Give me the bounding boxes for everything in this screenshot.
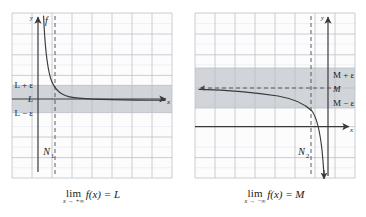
left-lim-operator: lim x → +∞: [63, 188, 84, 204]
threshold-sub-n2: 2: [306, 152, 309, 159]
label-M-minus-epsilon: M − ε: [333, 98, 355, 108]
label-L: L: [27, 94, 33, 104]
left-y-axis-label: y: [29, 14, 33, 21]
panel-limit-minus-infinity: y x M + ε M M − ε N 2 lim x → −∞ f(x) = …: [183, 0, 366, 217]
right-lim-body: f(x) = M: [267, 189, 304, 200]
threshold-label-n2: N: [297, 146, 306, 157]
limits-at-infinity-figure: y f x L + ε L L − ε N 1 lim x → +∞ f(x) …: [0, 0, 366, 217]
label-L-minus-epsilon: L − ε: [14, 108, 33, 118]
label-L-plus-epsilon: L + ε: [14, 80, 33, 90]
right-lim-operator: lim x → −∞: [244, 188, 265, 204]
panel-limit-plus-infinity: y f x L + ε L L − ε N 1 lim x → +∞ f(x) …: [0, 0, 183, 217]
right-lim-subscript: x → −∞: [244, 198, 265, 204]
label-M: M: [332, 84, 341, 94]
left-caption: lim x → +∞ f(x) = L: [0, 186, 183, 202]
right-caption: lim x → −∞ f(x) = M: [183, 186, 366, 202]
left-plot: y f x L + ε L L − ε N 1: [0, 0, 183, 186]
right-y-axis-label: y: [320, 14, 324, 21]
right-plot: y x M + ε M M − ε N 2: [183, 0, 366, 186]
label-M-plus-epsilon: M + ε: [333, 70, 355, 80]
left-lim-subscript: x → +∞: [63, 198, 84, 204]
threshold-sub-n1: 1: [51, 152, 54, 159]
threshold-label-n1: N: [42, 146, 51, 157]
left-lim-body: f(x) = L: [86, 189, 120, 200]
